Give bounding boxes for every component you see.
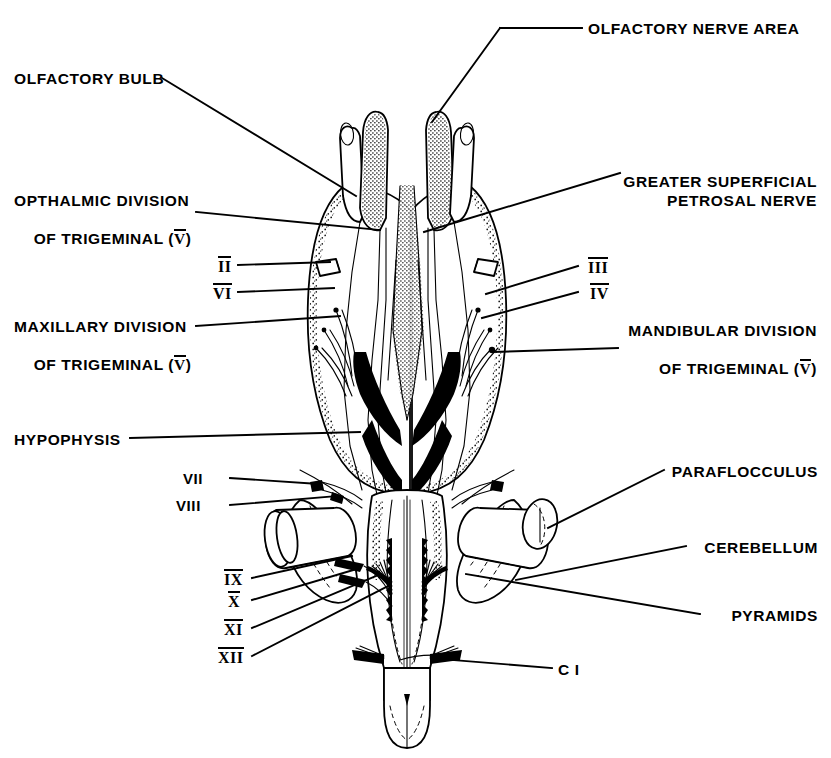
label-nerve-vi: VI xyxy=(213,283,232,303)
label-greater-superficial-petrosal-line1: GREATER SUPERFICIAL xyxy=(500,172,817,191)
label-maxillary-division-line2: OF TRIGEMINAL (V) xyxy=(14,336,192,393)
label-greater-superficial-petrosal-line2: PETROSAL NERVE xyxy=(500,191,817,210)
label-nerve-iii: III xyxy=(588,257,608,277)
maxillary-numeral-v: V xyxy=(174,355,186,372)
leader-hypophysis xyxy=(130,432,360,438)
label-mandibular-division-line2: OF TRIGEMINAL (V) xyxy=(500,340,817,397)
label-cervical-one: C I xyxy=(558,660,580,679)
label-olfactory-bulb: OLFACTORY BULB xyxy=(14,69,164,88)
maxillary-suffix: ) xyxy=(186,356,192,373)
spinal-cord xyxy=(384,668,430,748)
label-olfactory-nerve-area: OLFACTORY NERVE AREA xyxy=(588,19,800,38)
label-mandibular-division-line1: MANDIBULAR DIVISION xyxy=(500,321,817,340)
label-nerve-vii: VII xyxy=(183,469,203,488)
label-paraflocculus: PARAFLOCCULUS xyxy=(600,462,818,481)
mandibular-suffix: ) xyxy=(811,360,817,377)
mandibular-numeral-v: V xyxy=(800,359,812,376)
label-opthalmic-division-line1: OPTHALMIC DIVISION xyxy=(14,191,189,210)
label-hypophysis: HYPOPHYSIS xyxy=(14,430,121,449)
label-cerebellum: CEREBELLUM xyxy=(600,538,818,557)
label-nerve-iv: IV xyxy=(590,283,609,303)
leader-olfactory-nerve-area-d xyxy=(432,28,500,122)
label-maxillary-division-line1: MAXILLARY DIVISION xyxy=(14,317,187,336)
leader-c-one xyxy=(452,660,552,668)
label-opthalmic-division-line2: OF TRIGEMINAL (V) xyxy=(14,210,192,267)
label-nerve-viii: VIII xyxy=(176,496,201,515)
maxillary-prefix: OF TRIGEMINAL ( xyxy=(34,356,174,373)
opthalmic-numeral-v: V xyxy=(174,229,186,246)
label-nerve-ii: II xyxy=(218,256,231,276)
opthalmic-prefix: OF TRIGEMINAL ( xyxy=(34,230,174,247)
mandibular-prefix: OF TRIGEMINAL ( xyxy=(659,360,799,377)
leader-nerve-viii xyxy=(230,496,338,505)
label-nerve-xii: XII xyxy=(218,647,244,667)
label-nerve-xi: XI xyxy=(224,619,243,639)
label-nerve-ix: IX xyxy=(224,569,243,589)
leader-olfactory-bulb xyxy=(162,78,356,196)
label-pyramids: PYRAMIDS xyxy=(600,606,818,625)
opthalmic-suffix: ) xyxy=(186,230,192,247)
figure-canvas: OLFACTORY NERVE AREA OLFACTORY BULB GREA… xyxy=(0,0,831,758)
leader-nerve-vii xyxy=(230,478,318,484)
label-nerve-x: X xyxy=(228,591,240,611)
